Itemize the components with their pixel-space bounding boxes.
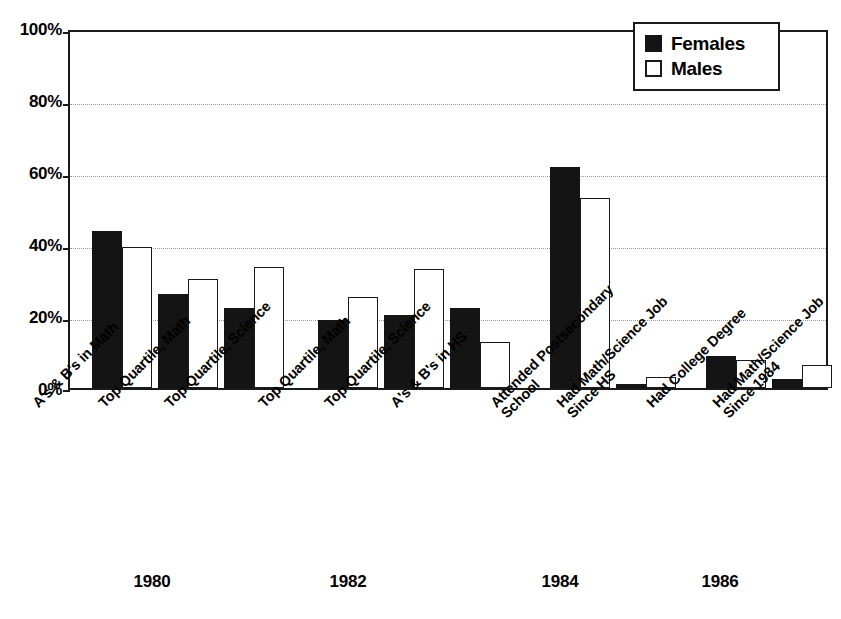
y-tick-20 xyxy=(63,320,70,322)
y-tick-60 xyxy=(63,176,70,178)
legend-label-males: Males xyxy=(671,58,722,80)
legend-label-females: Females xyxy=(671,33,745,55)
y-tick-80 xyxy=(63,104,70,106)
bar-females-7 xyxy=(616,384,646,388)
legend-swatch-males-icon xyxy=(645,60,662,77)
legend-item-females: Females xyxy=(645,31,768,56)
bar-males-9 xyxy=(802,365,832,388)
y-tick-40 xyxy=(63,248,70,250)
year-label-1984: 1984 xyxy=(500,572,620,592)
y-axis-label-80: 80% xyxy=(0,92,62,112)
legend-item-males: Males xyxy=(645,56,768,81)
y-tick-100 xyxy=(63,32,70,34)
y-axis-label-100: 100% xyxy=(0,20,62,40)
bar-chart: 100% 80% 60% 40% 20% 0% A's & B's in Mat… xyxy=(0,0,841,619)
year-label-1980: 1980 xyxy=(92,572,212,592)
y-axis-label-20: 20% xyxy=(0,308,62,328)
year-labels: 1980 1982 1984 1986 xyxy=(0,572,841,602)
bar-males-2 xyxy=(254,267,284,388)
year-label-1986: 1986 xyxy=(660,572,780,592)
legend-swatch-females-icon xyxy=(645,35,662,52)
legend: Females Males xyxy=(633,22,780,91)
y-axis-label-60: 60% xyxy=(0,164,62,184)
bar-females-0 xyxy=(92,231,122,388)
y-axis-label-40: 40% xyxy=(0,236,62,256)
category-labels: A's & B's in MathTop Quartile, MathTop Q… xyxy=(0,392,841,567)
bar-females-9 xyxy=(772,379,802,388)
year-label-1982: 1982 xyxy=(288,572,408,592)
